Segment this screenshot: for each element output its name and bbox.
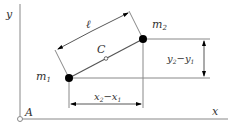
mass-2-label: m2 (152, 18, 167, 32)
mass-1-dot (65, 74, 73, 82)
dy-label: y2−y1 (166, 53, 194, 65)
mass-1-label: m1 (36, 70, 51, 84)
origin-label: A (24, 106, 33, 119)
two-mass-rod-diagram: y x A ℓ C m1 m2 x2−x1 y2−y1 (0, 0, 234, 127)
length-dimension-2 (92, 13, 128, 31)
length-dimension (58, 31, 92, 49)
origin-point (18, 117, 23, 122)
mass-2-dot (139, 35, 147, 43)
x-axis-label: x (212, 105, 219, 118)
y-axis-label: y (5, 8, 13, 21)
center-of-mass-point (104, 57, 108, 61)
dx-label: x2−x1 (94, 91, 121, 103)
length-label: ℓ (86, 18, 91, 31)
center-label: C (97, 43, 106, 56)
